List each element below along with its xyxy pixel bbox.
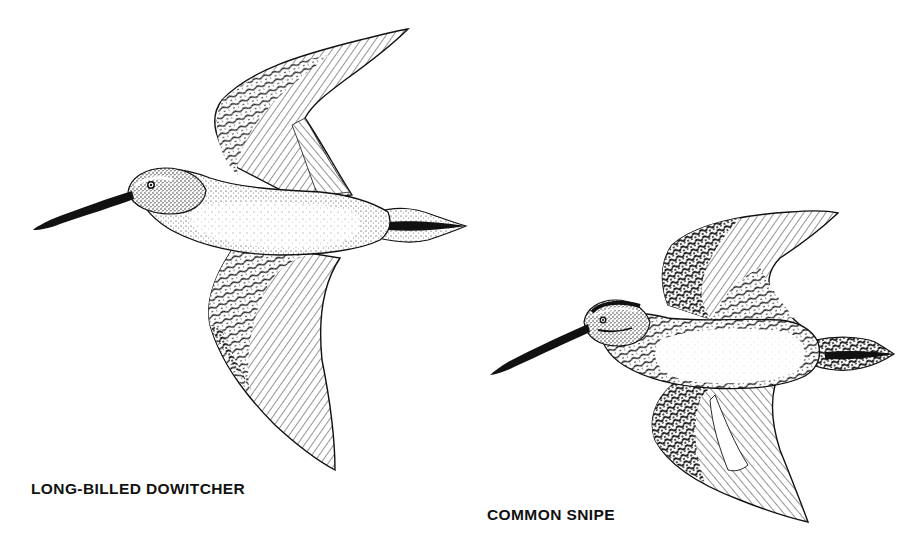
caption-common-snipe: COMMON SNIPE [487, 506, 615, 524]
caption-long-billed-dowitcher: LONG-BILLED DOWITCHER [31, 480, 245, 498]
common-snipe-figure [490, 211, 894, 522]
illustration-plate: LONG-BILLED DOWITCHER COMMON SNIPE [0, 0, 920, 549]
birds-illustration [0, 0, 920, 549]
snipe-bill [490, 324, 590, 375]
long-billed-dowitcher-figure [33, 29, 466, 470]
snipe-head [584, 300, 650, 346]
dowitcher-bill [33, 191, 134, 230]
